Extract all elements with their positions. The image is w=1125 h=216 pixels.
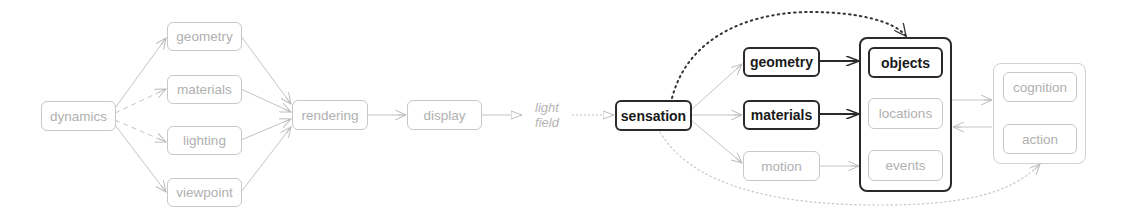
node-objects: objects	[868, 47, 943, 78]
edge-dynamics-lighting	[115, 120, 166, 142]
light-field-line-1: light	[526, 100, 568, 115]
edge-dynamics-materials	[115, 89, 166, 113]
node-cognition: cognition	[1003, 72, 1077, 102]
node-rendering: rendering	[292, 100, 368, 130]
node-geometry-generative: geometry	[167, 22, 242, 51]
light-field-label: light field	[526, 100, 568, 130]
vision-pipeline-diagram: dynamics geometry materials lighting vie…	[0, 0, 1125, 216]
edge-sensation-geometry	[691, 64, 742, 110]
node-events: events	[868, 150, 943, 181]
node-geometry-perceived: geometry	[743, 47, 820, 77]
node-motion: motion	[743, 151, 820, 181]
edge-dynamics-geometry	[115, 38, 166, 108]
node-dynamics: dynamics	[41, 101, 116, 131]
node-materials-perceived: materials	[743, 100, 820, 130]
node-locations: locations	[868, 98, 943, 129]
light-field-line-2: field	[526, 115, 568, 130]
node-action: action	[1003, 124, 1077, 154]
node-display: display	[407, 100, 482, 130]
node-materials-generative: materials	[167, 75, 242, 104]
edge-materials-rendering	[241, 89, 291, 112]
arc-sensation-action	[660, 132, 1040, 205]
edge-dynamics-viewpoint	[115, 125, 166, 192]
node-viewpoint: viewpoint	[167, 178, 242, 207]
node-sensation: sensation	[615, 100, 692, 131]
node-lighting: lighting	[167, 126, 242, 155]
edge-sensation-motion	[691, 120, 742, 163]
edge-geometry-rendering	[241, 36, 291, 104]
